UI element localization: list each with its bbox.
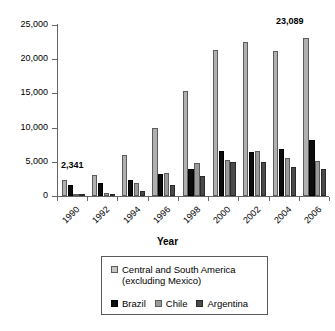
x-tick-mark — [57, 197, 58, 201]
legend-row-primary: Central and South America (excluding Mex… — [111, 264, 245, 286]
bar-1992-series-2 — [104, 193, 109, 196]
bar-2006-series-2 — [315, 161, 320, 196]
bar-2000-series-0 — [213, 50, 218, 196]
bar-group-2002 — [243, 25, 266, 196]
x-tick-label-1998: 1998 — [179, 205, 202, 228]
x-tick-label-1996: 1996 — [149, 205, 172, 228]
y-tick-label-20000: 20,000 — [20, 54, 48, 63]
bar-2000-series-1 — [219, 151, 224, 196]
legend-swatch-icon-argentina — [196, 300, 203, 307]
bar-group-1996 — [152, 25, 175, 196]
bar-1998-series-2 — [194, 163, 199, 196]
bar-1990-series-0 — [62, 180, 67, 196]
bar-2002-series-3 — [261, 162, 266, 196]
bar-2002-series-1 — [249, 152, 254, 196]
y-tick-label-25000: 25,000 — [20, 20, 48, 29]
bar-2004-series-0 — [273, 51, 278, 196]
bar-1990-series-1 — [68, 185, 73, 196]
bar-2006-series-3 — [321, 169, 326, 196]
bar-1994-series-3 — [140, 191, 145, 196]
bar-group-1994 — [122, 25, 145, 196]
bar-2006-series-1 — [309, 140, 314, 196]
legend-label-chile: Chile — [166, 298, 188, 309]
legend-item-brazil: Brazil — [111, 298, 146, 309]
bar-2002-series-0 — [243, 42, 248, 196]
bar-1996-series-2 — [164, 173, 169, 196]
bar-2006-series-0 — [303, 38, 308, 196]
bar-1996-series-0 — [152, 128, 157, 196]
x-tick-label-2002: 2002 — [239, 205, 262, 228]
y-tick-label-10000: 10,000 — [20, 123, 48, 132]
bar-2000-series-2 — [225, 160, 230, 196]
legend-row-secondary: Brazil Chile Argentina — [111, 298, 257, 309]
y-tick-label-5000: 5,000 — [25, 157, 48, 166]
legend-swatch-icon-brazil — [111, 300, 118, 307]
legend-label-argentina: Argentina — [207, 298, 248, 309]
bar-1992-series-3 — [110, 194, 115, 196]
bar-group-2006 — [303, 25, 326, 196]
bar-1998-series-1 — [188, 169, 193, 196]
legend-item-argentina: Argentina — [196, 298, 248, 309]
bar-2004-series-2 — [285, 158, 290, 196]
bar-1994-series-2 — [134, 183, 139, 196]
x-tick-label-2000: 2000 — [209, 205, 232, 228]
x-tick-mark — [269, 197, 270, 201]
x-tick-mark — [299, 197, 300, 201]
x-tick-label-1992: 1992 — [88, 205, 111, 228]
x-tick-mark — [329, 197, 330, 201]
y-tick-label-15000: 15,000 — [20, 88, 48, 97]
x-tick-mark — [117, 197, 118, 201]
bar-1992-series-1 — [98, 183, 103, 196]
legend-label-central-south-america: Central and South America (excluding Mex… — [122, 264, 236, 286]
bar-2000-series-3 — [230, 162, 235, 196]
x-tick-mark — [208, 197, 209, 201]
legend-label-brazil: Brazil — [122, 298, 146, 309]
bar-1998-series-3 — [200, 176, 205, 196]
x-tick-label-1994: 1994 — [119, 205, 142, 228]
x-tick-label-1990: 1990 — [58, 205, 81, 228]
x-tick-label-2006: 2006 — [300, 205, 323, 228]
bar-1996-series-3 — [170, 185, 175, 196]
bar-1990-series-2 — [73, 194, 78, 196]
legend-swatch-icon-chile — [155, 300, 162, 307]
bar-1994-series-1 — [128, 180, 133, 196]
bar-group-1990 — [62, 25, 85, 196]
bar-group-2004 — [273, 25, 296, 196]
bar-1998-series-0 — [183, 91, 188, 196]
bar-1996-series-1 — [158, 174, 163, 196]
bar-2004-series-3 — [291, 167, 296, 196]
bar-group-1992 — [92, 25, 115, 196]
data-label-2006: 23,089 — [276, 16, 304, 26]
legend-item-chile: Chile — [155, 298, 188, 309]
x-axis-title: Year — [0, 236, 335, 247]
data-label-1990: 2,341 — [61, 160, 84, 170]
x-tick-label-2004: 2004 — [270, 205, 293, 228]
bar-1994-series-0 — [122, 155, 127, 196]
x-tick-mark — [178, 197, 179, 201]
x-tick-mark — [87, 197, 88, 201]
bar-1990-series-3 — [79, 194, 84, 196]
plot-area — [57, 25, 329, 196]
bar-group-2000 — [213, 25, 236, 196]
bar-chart-figure: 05,00010,00015,00020,00025,000 199019921… — [0, 0, 335, 331]
bar-2002-series-2 — [255, 151, 260, 196]
legend-item-central-south-america: Central and South America (excluding Mex… — [111, 264, 236, 286]
y-tick-label-0: 0 — [43, 191, 48, 200]
x-tick-mark — [238, 197, 239, 201]
bar-1992-series-0 — [92, 175, 97, 196]
bar-group-1998 — [183, 25, 206, 196]
x-tick-mark — [148, 197, 149, 201]
bar-2004-series-1 — [279, 149, 284, 196]
legend-swatch-icon-central-south-america — [111, 266, 118, 273]
x-axis-line — [57, 196, 329, 197]
chart-legend: Central and South America (excluding Mex… — [101, 256, 268, 315]
